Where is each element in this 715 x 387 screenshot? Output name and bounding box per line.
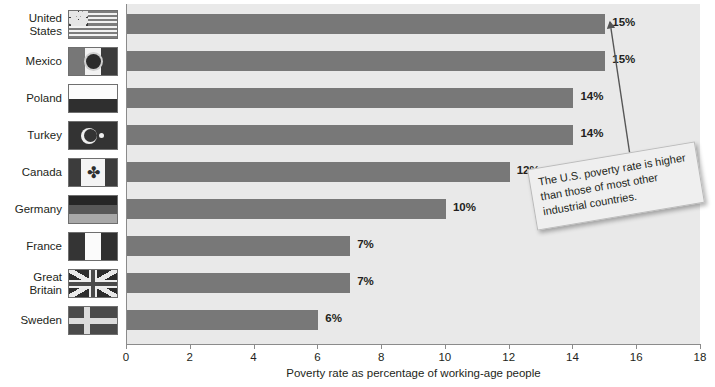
bar-row: UnitedStates15%: [0, 6, 715, 43]
x-axis-tick-label: 6: [314, 351, 320, 363]
x-axis-tick-mark: [190, 344, 191, 349]
flag-turkey-icon: [68, 121, 118, 150]
bar-row: Great Britain7%: [0, 265, 715, 302]
x-axis-title: Poverty rate as percentage of working-ag…: [126, 367, 701, 379]
x-axis-line: [126, 344, 701, 345]
x-axis-tick-label: 0: [123, 351, 129, 363]
country-label: UnitedStates: [0, 6, 62, 43]
bar: [127, 51, 605, 71]
x-axis-tick-label: 2: [187, 351, 193, 363]
bar: [127, 125, 573, 145]
bar-value-label: 15%: [612, 53, 635, 65]
flag-france-icon: [68, 232, 118, 261]
x-axis-tick-mark: [254, 344, 255, 349]
bar-row: Mexico15%: [0, 43, 715, 80]
bar-row: Turkey14%: [0, 117, 715, 154]
bar: [127, 310, 318, 330]
x-axis-tick-label: 14: [566, 351, 579, 363]
country-label: Mexico: [0, 43, 62, 80]
x-axis-tick-label: 10: [438, 351, 451, 363]
bar-value-label: 15%: [612, 16, 635, 28]
bar: [127, 273, 350, 293]
bar: [127, 236, 350, 256]
x-axis-tick-mark: [700, 344, 701, 349]
country-label: Poland: [0, 80, 62, 117]
country-label: Germany: [0, 191, 62, 228]
country-label: Turkey: [0, 117, 62, 154]
bar-value-label: 14%: [580, 90, 603, 102]
bar-row: Sweden6%: [0, 302, 715, 339]
country-label: Sweden: [0, 302, 62, 339]
poverty-rate-bar-chart: UnitedStates15%Mexico15%Poland14%Turkey1…: [0, 0, 715, 387]
bar-value-label: 14%: [580, 127, 603, 139]
x-axis-tick-mark: [572, 344, 573, 349]
x-axis-tick-label: 12: [502, 351, 515, 363]
x-axis-tick-label: 18: [694, 351, 707, 363]
x-axis-tick-mark: [126, 344, 127, 349]
bar-value-label: 10%: [453, 201, 476, 213]
bar-value-label: 6%: [325, 312, 342, 324]
bar-value-label: 7%: [357, 275, 374, 287]
flag-mexico-icon: [68, 47, 118, 76]
country-label: France: [0, 228, 62, 265]
bar: [127, 162, 510, 182]
x-axis-tick-mark: [509, 344, 510, 349]
flag-united-states-icon: [68, 10, 118, 39]
x-axis-tick-mark: [317, 344, 318, 349]
bar-value-label: 7%: [357, 238, 374, 250]
bar: [127, 199, 446, 219]
bar: [127, 14, 605, 34]
bar-row: France7%: [0, 228, 715, 265]
flag-germany-icon: [68, 195, 118, 224]
x-axis-tick-mark: [381, 344, 382, 349]
x-axis-tick-label: 4: [250, 351, 256, 363]
country-label: Great Britain: [0, 265, 62, 302]
flag-canada-icon: ✤: [68, 158, 118, 187]
x-axis-tick-mark: [636, 344, 637, 349]
flag-poland-icon: [68, 84, 118, 113]
x-axis-tick-mark: [445, 344, 446, 349]
x-axis-tick-label: 16: [630, 351, 643, 363]
bar: [127, 88, 573, 108]
bar-row: Poland14%: [0, 80, 715, 117]
x-axis-tick-label: 8: [378, 351, 384, 363]
flag-sweden-icon: [68, 306, 118, 335]
flag-great-britain-icon: [68, 269, 118, 298]
country-label: Canada: [0, 154, 62, 191]
